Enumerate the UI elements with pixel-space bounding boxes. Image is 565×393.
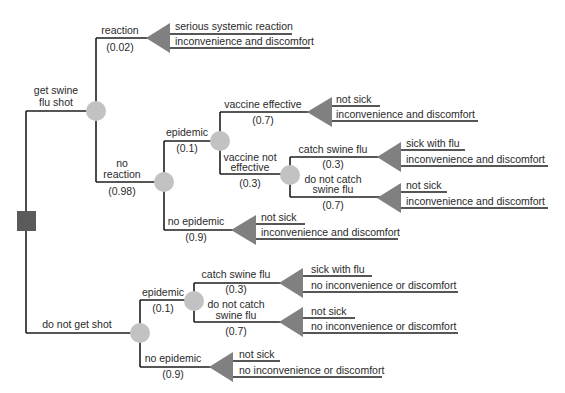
outcome-vaccine-effective-2: inconvenience and discomfort (336, 108, 475, 120)
outcome-shot-no-epidemic-1: not sick (261, 211, 297, 223)
outcome-reaction-2: inconvenience and discomfort (175, 35, 314, 47)
outcome-vne-catch-1: sick with flu (406, 137, 460, 149)
terminal-shot-no-epidemic-triangle-icon[interactable] (231, 215, 256, 245)
outcome-vne-no-catch-1: not sick (406, 179, 442, 191)
terminal-vne-no-catch-triangle-icon[interactable] (377, 183, 401, 213)
prob-shot-no-epidemic: (0.9) (185, 231, 207, 243)
prob-vne: (0.3) (239, 177, 261, 189)
prob-reaction: (0.02) (106, 41, 133, 53)
label-reaction: reaction (101, 24, 139, 36)
label-vaccine-effective: vaccine effective (224, 98, 302, 110)
label-shot-no-epidemic: no epidemic (168, 215, 225, 227)
outcome-noshot-no-catch-2: no inconvenience or discomfort (311, 320, 456, 332)
chance-node-shot-epidemic-circle-icon[interactable] (210, 131, 230, 151)
prob-noshot-catch: (0.3) (225, 283, 247, 295)
label-vne-no-catch-2: swine flu (313, 183, 354, 195)
terminal-noshot-catch-triangle-icon[interactable] (279, 268, 303, 298)
decision-node-square-icon[interactable] (17, 211, 36, 231)
outcome-noshot-catch-1: sick with flu (311, 263, 365, 275)
label-vne-2: effective (231, 161, 270, 173)
decision-tree: get swine flu shot reaction (0.02) no re… (0, 0, 565, 393)
prob-noshot-no-catch: (0.7) (225, 325, 247, 337)
label-noshot-epidemic: epidemic (142, 286, 184, 298)
outcome-shot-no-epidemic-2: inconvenience and discomfort (261, 226, 400, 238)
terminal-noshot-no-epidemic-triangle-icon[interactable] (209, 352, 233, 382)
chance-node-noshot-epidemic-circle-icon[interactable] (184, 291, 204, 311)
label-noshot-no-epidemic: no epidemic (145, 352, 202, 364)
prob-vaccine-effective: (0.7) (252, 114, 274, 126)
chance-node-vne-circle-icon[interactable] (280, 165, 300, 185)
chance-node-shot-circle-icon[interactable] (86, 101, 106, 121)
outcome-vaccine-effective-1: not sick (336, 93, 372, 105)
prob-shot-epidemic: (0.1) (176, 142, 198, 154)
terminal-reaction-triangle-icon[interactable] (146, 23, 170, 53)
prob-noshot-epidemic: (0.1) (152, 302, 174, 314)
label-get-shot-2: flu shot (39, 96, 73, 108)
label-no-shot: do not get shot (42, 318, 112, 330)
label-noshot-no-catch-2: swine flu (216, 309, 257, 321)
label-noshot-catch: catch swine flu (202, 268, 271, 280)
label-no-reaction-2: reaction (103, 168, 141, 180)
label-shot-epidemic: epidemic (166, 126, 208, 138)
outcome-vne-catch-2: inconvenience and discomfort (406, 153, 545, 165)
prob-no-reaction: (0.98) (108, 185, 135, 197)
chance-node-no-reaction-circle-icon[interactable] (154, 172, 174, 192)
terminal-vne-catch-triangle-icon[interactable] (377, 142, 401, 172)
outcome-vne-no-catch-2: inconvenience and discomfort (406, 195, 545, 207)
prob-vne-no-catch: (0.7) (322, 199, 344, 211)
prob-vne-catch: (0.3) (322, 158, 344, 170)
chance-node-no-shot-circle-icon[interactable] (130, 323, 150, 343)
label-vne-catch: catch swine flu (299, 143, 368, 155)
outcome-noshot-catch-2: no inconvenience or discomfort (311, 279, 456, 291)
outcome-noshot-no-epidemic-2: no inconvenience or discomfort (239, 364, 384, 376)
outcome-noshot-no-catch-1: not sick (311, 305, 347, 317)
terminal-noshot-no-catch-triangle-icon[interactable] (279, 307, 303, 337)
terminal-vaccine-effective-triangle-icon[interactable] (307, 97, 332, 127)
outcome-noshot-no-epidemic-1: not sick (239, 348, 275, 360)
outcome-reaction-1: serious systemic reaction (175, 20, 293, 32)
label-get-shot-1: get swine (34, 84, 79, 96)
prob-noshot-no-epidemic: (0.9) (162, 368, 184, 380)
